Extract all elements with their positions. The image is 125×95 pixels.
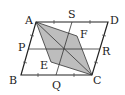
label-Q: Q — [52, 79, 61, 92]
diagram-canvas: A S D F P R E B Q C — [0, 0, 125, 95]
label-B: B — [9, 74, 17, 87]
label-C: C — [93, 74, 101, 87]
label-S: S — [68, 8, 76, 21]
geometry-diagram: A S D F P R E B Q C — [0, 0, 125, 95]
label-P: P — [18, 41, 26, 54]
label-D: D — [110, 14, 119, 27]
label-A: A — [24, 14, 34, 27]
label-F: F — [80, 28, 88, 41]
label-R: R — [102, 45, 111, 58]
label-E: E — [40, 59, 48, 72]
